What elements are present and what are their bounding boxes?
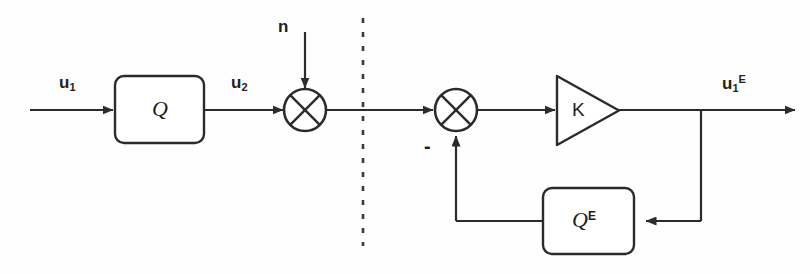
label-intermediate-u2: u2 bbox=[231, 74, 248, 93]
label-output-u1e: u1E bbox=[722, 74, 746, 94]
block-diagram-canvas: u1 Q u2 n - K QE u1E bbox=[0, 0, 810, 274]
label-feedback-sign: - bbox=[424, 136, 431, 156]
label-input-u1: u1 bbox=[59, 74, 76, 93]
diagram-svg bbox=[0, 0, 810, 274]
label-plant-q: Q bbox=[152, 98, 168, 120]
gain-block-k[interactable] bbox=[557, 76, 619, 145]
label-noise-n: n bbox=[278, 18, 288, 35]
label-estimator-qe: QE bbox=[572, 209, 596, 231]
label-gain-k: K bbox=[572, 100, 585, 119]
